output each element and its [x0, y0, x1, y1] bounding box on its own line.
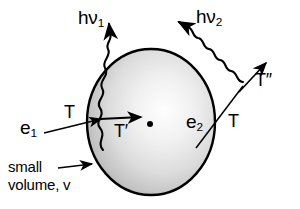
small-volume-caption-line2: volume, v [8, 176, 102, 194]
center-point-dot [147, 121, 153, 127]
electron-2-label: e2 [186, 112, 203, 131]
small-volume-caption-line1: small [8, 158, 102, 176]
photon-1-label: hν1 [78, 8, 104, 27]
transfer-inner-label: T′ [114, 122, 128, 140]
transfer-out-label: T″ [255, 71, 272, 89]
electron-1-label: e1 [20, 118, 37, 137]
physics-diagram: hν1 hν2 T″ T T T′ e1 e2 small volume, v [0, 0, 300, 209]
transfer-in-label: T [64, 103, 75, 121]
transfer-right-label: T [228, 112, 239, 130]
photon-2-label: hν2 [196, 7, 222, 26]
small-volume-caption: small volume, v [8, 158, 102, 193]
